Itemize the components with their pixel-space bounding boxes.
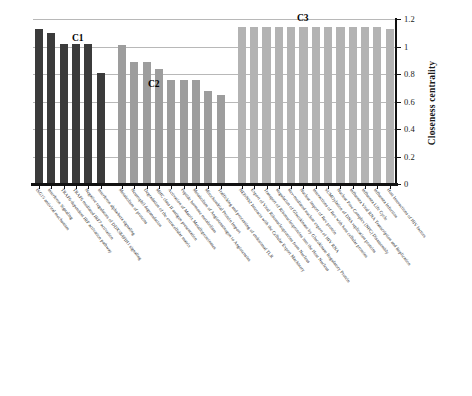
bar bbox=[204, 91, 212, 185]
y-axis-label: Closeness centrality bbox=[427, 61, 437, 145]
x-axis-tick-label: Interferon alpha/beta signaling bbox=[96, 188, 135, 236]
x-axis-tick bbox=[147, 186, 148, 189]
x-axis-tick bbox=[365, 186, 366, 189]
bar bbox=[287, 27, 295, 184]
bar bbox=[349, 27, 357, 184]
x-axis-tick-label: Interferon Signaling bbox=[47, 188, 74, 221]
x-axis-tick-label: Influenza Life Cycle bbox=[360, 188, 388, 222]
x-axis-tick-label: Interactions of Rev with host cellular p… bbox=[311, 188, 368, 259]
x-axis-tick bbox=[101, 186, 102, 189]
y-axis-tick bbox=[397, 129, 401, 130]
bar bbox=[250, 27, 258, 184]
y-axis-tick bbox=[397, 102, 401, 103]
x-axis-tick-label: Nuclear Pore Complex (NPC) Disassembly bbox=[336, 188, 390, 255]
x-axis-tick bbox=[340, 186, 341, 189]
x-axis-tick-label: Negative regulators of DDX58/IFIH1 signa… bbox=[84, 188, 143, 261]
x-axis-tick bbox=[353, 186, 354, 189]
x-axis-tick bbox=[134, 186, 135, 189]
x-axis-tick bbox=[291, 186, 292, 189]
x-axis-tick-label: Transport of Ribonucleoproteins into the… bbox=[262, 188, 329, 272]
bar bbox=[312, 27, 320, 184]
x-axis-tick bbox=[122, 186, 123, 189]
bar bbox=[217, 95, 225, 184]
bar bbox=[130, 62, 138, 184]
x-axis-tick-label: Neutrophil degranulation bbox=[130, 188, 163, 228]
x-axis-tick-label: TRAF6-dependent IRF activation pathway bbox=[59, 188, 112, 254]
x-axis-tick-label: Metabolism of Angiotensinogen to Angiote… bbox=[191, 188, 251, 263]
x-axis-tick-label: ISG15 antiviral mechanism bbox=[34, 188, 69, 232]
x-axis-tick bbox=[254, 186, 255, 189]
cluster-label-c3: C3 bbox=[297, 13, 309, 23]
y-axis-tick-label: 1.2 bbox=[404, 14, 415, 24]
y-axis-tick-label: 0.6 bbox=[404, 97, 415, 107]
x-axis-tick bbox=[279, 186, 280, 189]
bar bbox=[35, 29, 43, 184]
x-axis-tick-label: Rev-mediated nuclear export of HIV RNA bbox=[287, 188, 340, 254]
x-axis-tick bbox=[208, 186, 209, 189]
y-axis-tick-label: 0 bbox=[404, 179, 408, 189]
y-axis-tick-label: 0.8 bbox=[404, 69, 415, 79]
x-axis-tick-label: SUMOylation of DNA replication proteins bbox=[324, 188, 377, 254]
x-axis-tick bbox=[51, 186, 52, 189]
bar bbox=[60, 44, 68, 184]
x-axis-tick bbox=[390, 186, 391, 189]
x-axis-tick bbox=[267, 186, 268, 189]
cluster-label-c2: C2 bbox=[148, 79, 160, 89]
x-axis-tick-label: Influenza Infection bbox=[373, 188, 399, 219]
closeness-centrality-bar-chart: 00.20.40.60.811.2 Closeness centrality C… bbox=[0, 0, 472, 396]
x-axis-tick bbox=[303, 186, 304, 189]
x-axis-tick-label: Nuclear import of Rev protein bbox=[299, 188, 338, 236]
x-axis-tick bbox=[196, 186, 197, 189]
bar bbox=[299, 27, 307, 184]
bar bbox=[238, 27, 246, 184]
bar bbox=[336, 27, 344, 184]
x-axis-tick-label: Export of Viral Ribonucleoproteins from … bbox=[250, 188, 311, 264]
x-axis-tick bbox=[39, 186, 40, 189]
x-axis-tick-label: MHC class II antigen presentation bbox=[154, 188, 197, 242]
x-axis-tick bbox=[221, 186, 222, 189]
x-axis-tick bbox=[171, 186, 172, 189]
bar-series-container bbox=[33, 19, 396, 184]
bar bbox=[361, 27, 369, 184]
y-axis-tick bbox=[397, 157, 401, 158]
bar bbox=[192, 80, 200, 185]
x-axis-tick bbox=[159, 186, 160, 189]
x-axis-tick-label: Metabolism of proteins bbox=[117, 188, 148, 225]
y-axis-tick bbox=[397, 184, 401, 185]
x-axis-tick-label: Influenza Viral RNA Transcription and Re… bbox=[348, 188, 411, 267]
bar bbox=[373, 27, 381, 184]
x-axis-tick bbox=[184, 186, 185, 189]
y-axis-tick bbox=[397, 74, 401, 75]
bar bbox=[275, 27, 283, 184]
bar bbox=[97, 73, 105, 184]
bar bbox=[84, 44, 92, 184]
bar bbox=[386, 29, 394, 184]
x-axis-tick-label: Mitochondrial Protein Import bbox=[204, 188, 242, 235]
y-axis-tick-label: 1 bbox=[404, 42, 408, 52]
cluster-label-c1: C1 bbox=[72, 33, 84, 43]
bar bbox=[324, 27, 332, 184]
x-axis-tick-label: TRAF6 mediated IRF7 activation bbox=[71, 188, 114, 241]
x-axis-tick bbox=[377, 186, 378, 189]
x-axis-tick-label: NEP/NS2 Interacts with the Cellular Expo… bbox=[237, 188, 305, 273]
y-axis-tick-label: 0.2 bbox=[404, 152, 415, 162]
y-axis-tick bbox=[397, 47, 401, 48]
y-axis-tick bbox=[397, 19, 401, 20]
x-axis-tick bbox=[76, 186, 77, 189]
x-axis-tick-label: Peptide hormone metabolism bbox=[179, 188, 217, 234]
bar bbox=[262, 27, 270, 184]
y-axis-tick-label: 0.4 bbox=[404, 124, 415, 134]
x-axis-tick bbox=[316, 186, 317, 189]
x-axis-tick bbox=[328, 186, 329, 189]
x-axis-tick bbox=[242, 186, 243, 189]
x-axis-tick bbox=[88, 186, 89, 189]
bar bbox=[118, 45, 126, 184]
x-axis-tick-label: Host Interactions of HIV factors bbox=[385, 188, 426, 239]
bar bbox=[167, 80, 175, 185]
x-axis-tick-label: Trafficking and processing of endosomal … bbox=[216, 188, 273, 260]
x-axis-tick bbox=[64, 186, 65, 189]
x-axis-line bbox=[31, 183, 398, 186]
x-axis-tick-label: Activation of Matrix Metalloproteinases bbox=[167, 188, 217, 251]
bar bbox=[47, 33, 55, 184]
x-axis-tick-label: Regulation of Glucokinase by Glucokinase… bbox=[274, 188, 350, 284]
